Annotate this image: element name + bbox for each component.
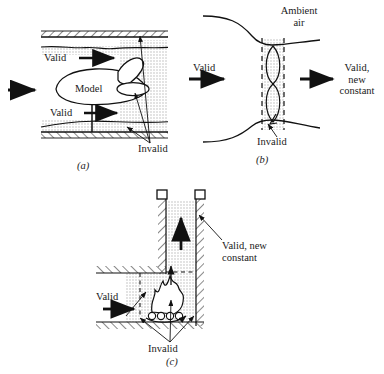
burner-port: [148, 312, 155, 319]
label-valid-in-b: Valid: [193, 62, 215, 74]
burner-port: [166, 312, 173, 319]
furnace-wall-top: [96, 266, 166, 273]
panel-label-c: (c): [166, 356, 178, 367]
tunnel-wall-top: [41, 31, 168, 37]
label-invalid-a: Invalid: [138, 143, 168, 155]
panel-label-a: (a): [77, 160, 89, 171]
burner-port: [157, 312, 164, 319]
panel-label-b: (b): [256, 154, 268, 165]
chimney-wall-left: [158, 196, 166, 274]
label-invalid-b: Invalid: [257, 136, 287, 148]
figure-canvas: Valid Model Valid Invalid (a) Ambient ai…: [0, 0, 384, 374]
label-invalid-c: Invalid: [148, 343, 178, 355]
label-valid-upper-a: Valid: [44, 52, 66, 64]
label-ambient-air-b: Ambient air: [268, 5, 330, 28]
chimney-cap-right: [195, 190, 205, 199]
panel-c-graphics: [96, 190, 222, 342]
chimney-cap-left: [157, 190, 167, 199]
panel-b-graphics: [189, 16, 333, 142]
label-valid-new-constant-c: Valid, new constant: [222, 240, 267, 263]
label-valid-new-constant-b: Valid, new constant: [330, 62, 384, 97]
label-model-a: Model: [75, 83, 102, 95]
label-valid-lower-a: Valid: [50, 107, 72, 119]
label-valid-in-c: Valid: [96, 291, 118, 303]
